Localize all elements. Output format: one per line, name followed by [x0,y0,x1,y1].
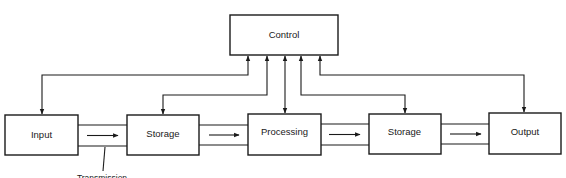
processing-node: Processing [248,114,321,155]
control-node: Control [230,15,338,55]
transmission-channel-input-storage1 [78,125,127,146]
transmission-channel-processing-storage2 [321,124,369,145]
storage-node-2: Storage [369,114,441,154]
system-block-diagram: Control Input Storage Processing [0,0,566,178]
storage-1-label: Storage [146,128,179,139]
transmission-annotation: Transmission [77,147,127,178]
output-label: Output [511,126,540,137]
output-node: Output [489,113,561,154]
control-link-input [42,56,248,114]
transmission-channel-storage2-output [441,124,489,144]
input-label: Input [31,129,52,140]
processing-label: Processing [261,126,308,137]
control-link-storage1 [163,56,267,114]
storage-node-1: Storage [127,115,199,155]
control-link-storage2 [301,56,405,113]
input-node: Input [5,115,78,155]
transmission-channel-storage1-processing [199,125,248,145]
transmission-label: Transmission [77,173,127,178]
storage-2-label: Storage [388,126,421,137]
control-label: Control [269,29,300,40]
control-link-output [320,56,524,112]
